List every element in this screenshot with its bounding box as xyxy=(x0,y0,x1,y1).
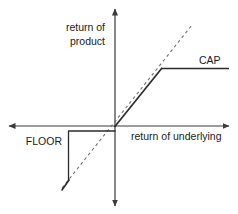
underlying-reference-dashed-line xyxy=(62,25,192,188)
x-axis-label: return of underlying xyxy=(131,130,222,142)
linear-participation-segment xyxy=(115,68,163,127)
cap-label: CAP xyxy=(199,54,221,66)
payoff-lower-stub-segment xyxy=(62,180,69,190)
product-payoff-line xyxy=(62,68,229,190)
floor-label: FLOOR xyxy=(26,135,63,147)
payoff-diagram: return of product return of underlying C… xyxy=(0,0,238,214)
y-axis-label-line-1: return of xyxy=(66,21,105,33)
y-axis-label-line-2: product xyxy=(70,35,105,47)
payoff-chart-svg: return of product return of underlying C… xyxy=(0,0,238,214)
